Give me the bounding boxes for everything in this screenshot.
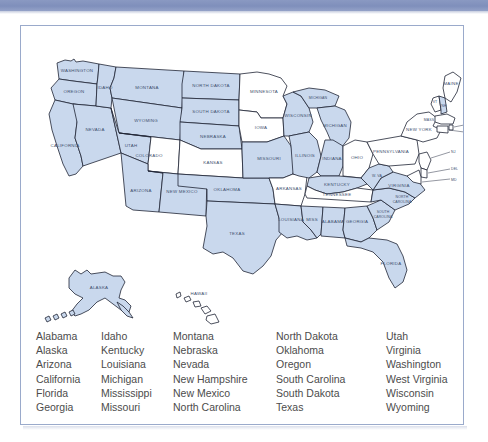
list-item: Idaho <box>101 329 152 343</box>
label-ohio: OHIO <box>351 155 364 160</box>
top-decorative-band <box>0 0 488 11</box>
list-item: Virginia <box>386 343 447 357</box>
label-virginia: VIRGINIA <box>388 183 409 188</box>
label-north-carolina: NORTH <box>396 195 409 199</box>
label-texas: TEXAS <box>229 231 245 236</box>
label-new-hampshire: NH <box>441 104 447 108</box>
label-massachusetts: MASS <box>424 118 435 122</box>
list-item: Wisconsin <box>386 386 447 400</box>
list-item: Oklahoma <box>276 343 345 357</box>
list-item: North Carolina <box>173 400 248 414</box>
list-item: Missouri <box>101 400 152 414</box>
list-item: Michigan <box>101 372 152 386</box>
label-georgia: GEORGIA <box>346 219 368 224</box>
state-list-column-0: Alabama Alaska Arizona California Florid… <box>36 329 80 414</box>
label-south-carolina-2: CAROLINA <box>374 215 393 219</box>
label-arkansas: ARKANSAS <box>276 186 302 191</box>
label-tennessee: TENNESSEE <box>323 192 352 197</box>
label-alabama: ALABAMA <box>322 219 345 224</box>
list-item: Arizona <box>36 357 80 371</box>
label-california: CALIFORNIA <box>51 143 80 148</box>
label-new-york: NEW YORK <box>406 127 432 132</box>
list-item: West Virginia <box>386 372 447 386</box>
list-item: Montana <box>173 329 248 343</box>
list-item: Utah <box>386 329 447 343</box>
list-item: Alabama <box>36 329 80 343</box>
state-rhode-island <box>449 125 453 130</box>
label-colorado: COLORADO <box>135 153 162 158</box>
alaska-aleutians <box>45 310 75 322</box>
label-wyoming: WYOMING <box>134 118 158 123</box>
label-indiana: INDIANA <box>322 156 342 161</box>
label-vermont: VT <box>433 100 438 104</box>
figure-frame-shadow <box>23 426 467 430</box>
label-oklahoma: OKLAHOMA <box>214 187 241 192</box>
leader-rhode-island <box>454 125 463 127</box>
list-item: South Dakota <box>276 386 345 400</box>
label-missouri: MISSOURI <box>257 156 281 161</box>
list-item: California <box>36 372 80 386</box>
label-hawaii: HAWAII <box>191 291 208 296</box>
state-list-column-4: Utah Virginia Washington West Virginia W… <box>386 329 447 414</box>
label-pennsylvania: PENNSYLVANIA <box>373 149 409 154</box>
state-connecticut <box>437 126 448 133</box>
label-illinois: ILLINOIS <box>295 153 315 158</box>
leader-new-jersey <box>431 152 450 158</box>
list-item: North Dakota <box>276 329 345 343</box>
label-south-carolina: SOUTH <box>377 210 390 214</box>
list-item: South Carolina <box>276 372 345 386</box>
state-list-column-1: Idaho Kentucky Louisiana Michigan Missis… <box>101 329 152 414</box>
label-iowa: IOWA <box>255 125 268 130</box>
label-mississippi: MISS <box>306 217 318 222</box>
label-alaska: ALASKA <box>90 285 109 290</box>
list-item: Georgia <box>36 400 80 414</box>
label-washington: WASHINGTON <box>61 68 94 73</box>
label-new-jersey: NJ <box>451 150 456 154</box>
state-maine <box>443 72 461 102</box>
label-west-virginia: W. VA <box>372 174 383 178</box>
state-texas <box>203 201 283 274</box>
leader-connecticut <box>449 130 463 132</box>
top-band-shadow <box>0 11 488 14</box>
state-new-jersey <box>419 152 431 170</box>
label-arizona: ARIZONA <box>130 188 151 193</box>
label-maryland: MD <box>451 178 457 182</box>
list-item: New Mexico <box>173 386 248 400</box>
selected-states-list: Alabama Alaska Arizona California Florid… <box>21 329 463 424</box>
list-item: Nebraska <box>173 343 248 357</box>
list-item: Oregon <box>276 357 345 371</box>
state-massachusetts <box>435 114 455 124</box>
label-north-carolina-2: CAROLINA <box>393 200 412 204</box>
list-item: Alaska <box>36 343 80 357</box>
label-upper-michigan: MICHIGAN <box>309 96 328 100</box>
label-kentucky: KENTUCKY <box>324 182 350 187</box>
label-florida: FLORIDA <box>381 261 402 266</box>
list-item: Florida <box>36 386 80 400</box>
label-new-mexico: NEW MEXICO <box>166 189 198 194</box>
figure-frame: WASHINGTON OREGON CALIFORNIA NEVADA IDAH… <box>20 25 464 425</box>
label-idaho: IDAHO <box>97 85 112 90</box>
list-item: Kentucky <box>101 343 152 357</box>
label-minnesota: MINNESOTA <box>250 89 278 94</box>
map-area: WASHINGTON OREGON CALIFORNIA NEVADA IDAH… <box>21 26 463 326</box>
label-delaware: DEL <box>451 167 458 171</box>
list-item: New Hampshire <box>173 372 248 386</box>
label-michigan: MICHIGAN <box>323 123 347 128</box>
list-item: Texas <box>276 400 345 414</box>
label-nebraska: NEBRASKA <box>200 134 226 139</box>
list-item: Nevada <box>173 357 248 371</box>
list-item: Washington <box>386 357 447 371</box>
list-item: Wyoming <box>386 400 447 414</box>
label-oregon: OREGON <box>63 89 84 94</box>
label-north-dakota: NORTH DAKOTA <box>192 83 229 88</box>
label-nevada: NEVADA <box>85 127 104 132</box>
list-item: Mississippi <box>101 386 152 400</box>
leader-maryland <box>422 179 450 182</box>
label-utah: UTAH <box>125 143 138 148</box>
label-wisconsin: WISCONSIN <box>284 113 312 118</box>
state-delaware <box>421 168 427 178</box>
label-louisiana: LOUISIANA <box>278 217 304 222</box>
state-list-column-3: North Dakota Oklahoma Oregon South Carol… <box>276 329 345 414</box>
state-list-column-2: Montana Nebraska Nevada New Hampshire Ne… <box>173 329 248 414</box>
label-maine: MAINE <box>443 81 458 86</box>
